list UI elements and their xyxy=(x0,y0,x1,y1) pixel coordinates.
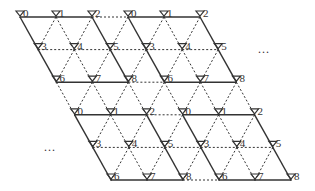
node-label: 7 xyxy=(258,170,264,182)
antenna-node: 3 xyxy=(89,137,102,149)
antenna-node: 0 xyxy=(16,7,29,19)
node-label: 3 xyxy=(204,137,210,149)
node-label: 1 xyxy=(114,105,120,117)
node-label: 1 xyxy=(59,7,65,19)
node-label: 3 xyxy=(41,40,47,52)
node-label: 5 xyxy=(113,40,119,52)
antenna-node: 6 xyxy=(52,72,65,84)
antenna-node: 6 xyxy=(107,170,120,182)
node-label: 7 xyxy=(95,72,101,84)
node-label: 2 xyxy=(258,105,264,117)
node-label: 5 xyxy=(276,137,282,149)
node-label: 6 xyxy=(59,72,65,84)
node-label: 4 xyxy=(185,40,191,52)
node-label: 5 xyxy=(168,137,174,149)
antenna-node: 3 xyxy=(34,40,47,52)
node-label: 6 xyxy=(222,170,228,182)
node-label: 0 xyxy=(131,7,137,19)
node-label: 0 xyxy=(23,7,29,19)
continuation-ellipses: ...... xyxy=(44,42,270,154)
node-label: 4 xyxy=(77,40,83,52)
node-label: 4 xyxy=(132,137,138,149)
node-label: 8 xyxy=(131,72,137,84)
node-label: 7 xyxy=(203,72,209,84)
node-label: 6 xyxy=(167,72,173,84)
lattice-edges xyxy=(20,17,291,180)
node-label: 0 xyxy=(78,105,84,117)
node-label: 3 xyxy=(149,40,155,52)
node-label: 6 xyxy=(114,170,120,182)
node-label: 5 xyxy=(221,40,227,52)
node-label: 3 xyxy=(96,137,102,149)
ellipsis-indicator: ... xyxy=(44,140,56,154)
node-label: 2 xyxy=(150,105,156,117)
node-label: 4 xyxy=(240,137,246,149)
node-label: 8 xyxy=(294,170,300,182)
cluster-lattice-diagram: 012012345345678678012012345345678678 ...… xyxy=(0,0,315,191)
node-label: 1 xyxy=(167,7,173,19)
node-label: 2 xyxy=(95,7,101,19)
ellipsis-indicator: ... xyxy=(258,42,270,56)
node-label: 0 xyxy=(186,105,192,117)
node-label: 7 xyxy=(150,170,156,182)
node-label: 2 xyxy=(203,7,209,19)
antenna-node: 0 xyxy=(71,105,84,117)
node-label: 1 xyxy=(222,105,228,117)
node-label: 8 xyxy=(186,170,192,182)
node-label: 8 xyxy=(239,72,245,84)
